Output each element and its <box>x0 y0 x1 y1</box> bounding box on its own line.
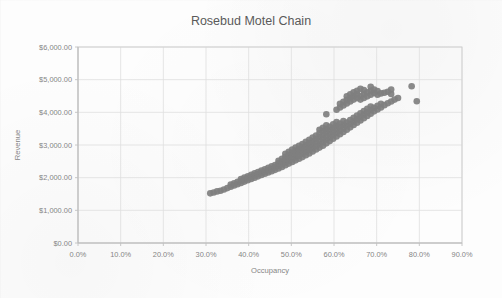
data-point <box>388 86 395 93</box>
x-axis-title: Occupancy <box>251 266 289 275</box>
y-axis-tick-label: $0.00 <box>54 239 73 248</box>
y-axis-tick-labels: $0.00$1,000.00$2,000.00$3,000.00$4,000.0… <box>39 43 72 248</box>
scatter-plot-svg: Rosebud Motel Chain $0.00$1,000.00$2,000… <box>0 0 502 298</box>
x-axis-tick-labels: 0.0%10.0%20.0%30.0%40.0%50.0%60.0%70.0%8… <box>70 250 473 259</box>
x-axis-tick-label: 80.0% <box>409 250 430 259</box>
x-axis-tick-label: 10.0% <box>110 250 131 259</box>
x-axis-tick-label: 0.0% <box>70 250 87 259</box>
y-axis-tick-label: $2,000.00 <box>39 173 72 182</box>
gridlines-group <box>78 47 462 243</box>
y-axis-tick-label: $5,000.00 <box>39 75 72 84</box>
x-axis-tick-label: 70.0% <box>366 250 387 259</box>
data-point <box>408 83 415 90</box>
plot-frame <box>75 47 462 246</box>
data-point <box>323 111 330 118</box>
x-axis-tick-label: 50.0% <box>281 250 302 259</box>
data-point <box>413 98 420 105</box>
x-axis-tick-label: 60.0% <box>324 250 345 259</box>
data-point <box>395 95 402 102</box>
x-axis-tick-label: 20.0% <box>153 250 174 259</box>
x-axis-tick-label: 40.0% <box>238 250 259 259</box>
y-axis-tick-label: $1,000.00 <box>39 206 72 215</box>
chart-title: Rosebud Motel Chain <box>191 14 311 28</box>
x-axis-tick-label: 30.0% <box>196 250 217 259</box>
y-axis-tick-label: $6,000.00 <box>39 43 72 52</box>
chart-container: Rosebud Motel Chain $0.00$1,000.00$2,000… <box>0 0 502 298</box>
data-points-group <box>207 83 420 197</box>
y-axis-tick-label: $4,000.00 <box>39 108 72 117</box>
y-axis-tick-label: $3,000.00 <box>39 141 72 150</box>
y-axis-title: Revenue <box>13 130 22 160</box>
x-axis-tick-label: 90.0% <box>452 250 473 259</box>
